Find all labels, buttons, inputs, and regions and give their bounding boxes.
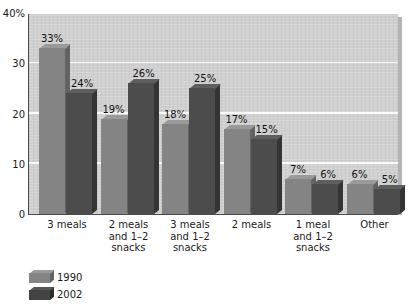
x-axis-label-line: snacks xyxy=(276,242,350,254)
chart-legend: 19902002 xyxy=(29,270,82,304)
bar-value-label: 19% xyxy=(102,105,124,115)
bar-front-face xyxy=(224,129,250,214)
bar-front-face xyxy=(101,119,127,214)
y-axis-tick-label: 20 xyxy=(0,110,25,120)
bar-2002-4[interactable]: 15% xyxy=(251,139,277,214)
legend-swatch-face xyxy=(29,290,50,300)
bar-value-label: 6% xyxy=(352,170,368,180)
y-axis-tick-label: 10 xyxy=(0,160,25,170)
bar-group: 19%26% xyxy=(101,14,161,214)
legend-label: 1990 xyxy=(57,273,82,283)
bar-2002-5[interactable]: 6% xyxy=(312,184,338,214)
legend-item-2002[interactable]: 2002 xyxy=(29,287,82,302)
bar-front-face xyxy=(39,48,65,214)
y-axis-tick-label: 40% xyxy=(0,9,25,19)
bar-group: 18%25% xyxy=(162,14,222,214)
x-axis-label-line: snacks xyxy=(153,242,227,254)
bar-1990-5[interactable]: 7% xyxy=(285,179,311,214)
bar-value-label: 18% xyxy=(164,110,186,120)
bar-front-face xyxy=(374,189,400,214)
bar-front-face xyxy=(251,139,277,214)
bar-1990-3[interactable]: 18% xyxy=(162,124,188,214)
bar-2002-3[interactable]: 25% xyxy=(189,88,215,214)
legend-swatch xyxy=(29,290,50,300)
bar-value-label: 33% xyxy=(41,34,63,44)
bar-value-label: 5% xyxy=(382,175,398,185)
bar-value-label: 26% xyxy=(132,69,154,79)
legend-label: 2002 xyxy=(57,290,82,300)
bar-front-face xyxy=(347,184,373,214)
y-axis-tick-label: 30 xyxy=(0,59,25,69)
bar-1990-6[interactable]: 6% xyxy=(347,184,373,214)
x-axis-category-label: Other xyxy=(338,219,411,231)
cut-off-title xyxy=(30,0,210,4)
bar-value-label: 6% xyxy=(320,170,336,180)
x-axis-label-line: and 1–2 xyxy=(276,231,350,243)
bar-1990-4[interactable]: 17% xyxy=(224,129,250,214)
bar-front-face xyxy=(128,83,154,214)
bar-front-face xyxy=(285,179,311,214)
bar-value-label: 7% xyxy=(290,165,306,175)
bar-value-label: 15% xyxy=(255,125,277,135)
bar-group: 17%15% xyxy=(224,14,284,214)
bar-1990-2[interactable]: 19% xyxy=(101,119,127,214)
bar-value-label: 24% xyxy=(71,79,93,89)
x-axis-label-line: Other xyxy=(338,219,411,231)
bar-1990-1[interactable]: 33% xyxy=(39,48,65,214)
chart-plot-area: 33%24%19%26%18%25%17%15%7%6%6%5% xyxy=(28,14,398,215)
y-axis-tick-label: 0 xyxy=(0,210,25,220)
bar-2002-1[interactable]: 24% xyxy=(66,93,92,214)
bar-side-face xyxy=(92,89,97,214)
bar-group: 33%24% xyxy=(39,14,99,214)
bar-value-label: 17% xyxy=(225,115,247,125)
bar-side-face xyxy=(277,135,282,214)
bar-front-face xyxy=(189,88,215,214)
bar-2002-6[interactable]: 5% xyxy=(374,189,400,214)
bar-value-label: 25% xyxy=(194,74,216,84)
legend-item-1990[interactable]: 1990 xyxy=(29,270,82,285)
bar-front-face xyxy=(66,93,92,214)
legend-swatch xyxy=(29,273,50,283)
bar-2002-2[interactable]: 26% xyxy=(128,83,154,214)
bar-side-face xyxy=(154,79,159,214)
bar-front-face xyxy=(162,124,188,214)
bar-group: 7%6% xyxy=(285,14,345,214)
bar-front-face xyxy=(312,184,338,214)
bar-side-face xyxy=(338,180,343,214)
x-axis-label-line: and 1–2 xyxy=(153,231,227,243)
legend-swatch-face xyxy=(29,273,50,283)
bar-side-face xyxy=(215,84,220,214)
bar-group: 6%5% xyxy=(347,14,407,214)
